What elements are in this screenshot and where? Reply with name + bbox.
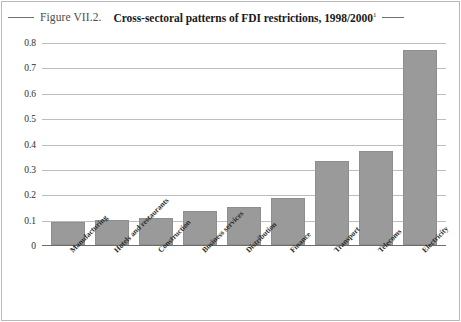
figure-number-label: Figure VII.2. (40, 11, 101, 23)
bar-slot (266, 43, 310, 245)
y-axis-tick-label: 0.4 (24, 140, 36, 150)
y-axis-tick-label: 0.3 (24, 165, 36, 175)
bar[interactable] (315, 161, 349, 245)
bar-slot (178, 43, 222, 245)
y-axis-tick-label: 0.1 (24, 216, 36, 226)
bar-slot (354, 43, 398, 245)
figure-title-band: Figure VII.2. Cross-sectoral patterns of… (0, 7, 461, 27)
bar[interactable] (359, 151, 393, 245)
y-axis-tick-label: 0.8 (24, 38, 36, 48)
bar-slot (310, 43, 354, 245)
figure-title: Cross-sectoral patterns of FDI restricti… (113, 11, 376, 24)
y-axis-tick-label: 0.6 (24, 89, 36, 99)
x-axis-label-group: ManufacturingHotels and restaurantsConst… (42, 248, 446, 318)
bar-slot (46, 43, 90, 245)
bar-slot (398, 43, 442, 245)
title-rule-right (382, 17, 404, 18)
y-axis-tick-label: 0.5 (24, 114, 36, 124)
y-axis-tick-label: 0 (31, 241, 36, 251)
bar-slot (90, 43, 134, 245)
bar[interactable] (403, 50, 437, 245)
title-rule-left (8, 17, 34, 18)
figure-container: Figure VII.2. Cross-sectoral patterns of… (0, 0, 461, 322)
figure-title-text: Cross-sectoral patterns of FDI restricti… (113, 11, 372, 23)
y-axis-tick-label: 0.2 (24, 190, 36, 200)
y-axis-tick-label: 0.7 (24, 63, 36, 73)
figure-title-footnote-marker: 1 (373, 11, 376, 19)
